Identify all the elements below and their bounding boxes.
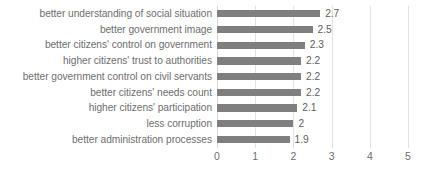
bar-value-label: 2.5 [318, 22, 332, 38]
bar[interactable] [217, 104, 297, 111]
chart-row: higher citizens' trust to authorities2.2 [0, 53, 430, 69]
bar-value-label: 2.2 [306, 69, 320, 85]
category-label: better citizens' needs count [0, 85, 212, 101]
bar-value-label: 1.9 [295, 132, 309, 148]
bar-value-label: 2.1 [302, 100, 316, 116]
bar[interactable] [217, 42, 305, 49]
category-label: better government control on civil serva… [0, 69, 212, 85]
bar-value-label: 2.2 [306, 53, 320, 69]
bar-value-label: 2.7 [325, 6, 339, 22]
x-tick-label: 5 [393, 148, 423, 164]
category-label: better government image [0, 22, 212, 38]
bar[interactable] [217, 57, 301, 64]
chart-row: better government image2.5 [0, 22, 430, 38]
category-label: higher citizens' trust to authorities [0, 53, 212, 69]
bar-value-label: 2.2 [306, 85, 320, 101]
bar[interactable] [217, 10, 320, 17]
category-label: less corruption [0, 116, 212, 132]
x-tick-label: 1 [240, 148, 270, 164]
x-tick-label: 3 [317, 148, 347, 164]
category-label: better understanding of social situation [0, 6, 212, 22]
chart-row: higher citizens' participation2.1 [0, 100, 430, 116]
bar[interactable] [217, 136, 290, 143]
chart-row: less corruption2 [0, 116, 430, 132]
chart-row: better citizens' control on government2.… [0, 37, 430, 53]
bar[interactable] [217, 120, 293, 127]
chart-row: better citizens' needs count2.2 [0, 85, 430, 101]
bar-chart: better understanding of social situation… [0, 0, 430, 181]
category-label: better citizens' control on government [0, 37, 212, 53]
bar-value-label: 2.3 [310, 37, 324, 53]
x-tick-label: 4 [355, 148, 385, 164]
x-tick-label: 0 [202, 148, 232, 164]
chart-rows: better understanding of social situation… [0, 6, 430, 148]
x-axis: 012345 [0, 148, 430, 168]
bar-value-label: 2 [298, 116, 304, 132]
chart-row: better government control on civil serva… [0, 69, 430, 85]
category-label: higher citizens' participation [0, 100, 212, 116]
chart-row: better understanding of social situation… [0, 6, 430, 22]
bar[interactable] [217, 73, 301, 80]
bar[interactable] [217, 26, 313, 33]
bar[interactable] [217, 89, 301, 96]
x-tick-label: 2 [278, 148, 308, 164]
category-label: better administration processes [0, 132, 212, 148]
chart-row: better administration processes1.9 [0, 132, 430, 148]
